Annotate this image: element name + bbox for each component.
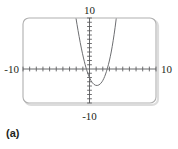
axis-label-top: 10 xyxy=(84,4,96,16)
axis-label-left: -10 xyxy=(4,63,19,75)
axis-label-right: 10 xyxy=(161,63,173,75)
figure-container: 10 -10 -10 10 (a) xyxy=(0,0,178,149)
y-axis-ticks xyxy=(87,18,92,103)
figure-part-label: (a) xyxy=(6,128,19,139)
axis-label-bottom: -10 xyxy=(82,110,97,122)
graphing-calculator-screen: 10 -10 -10 10 xyxy=(0,0,178,149)
